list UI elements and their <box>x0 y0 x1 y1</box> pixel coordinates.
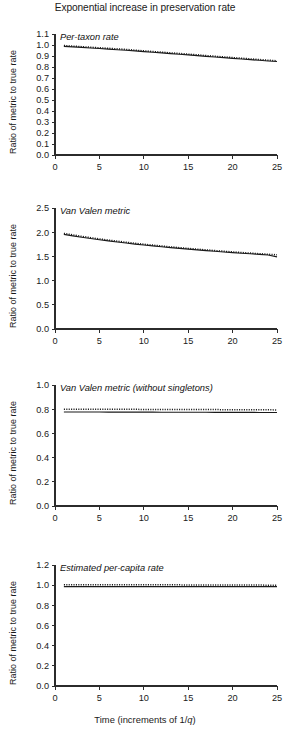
y-tick-label: 0.9 <box>36 51 49 61</box>
data-series-markers <box>64 233 277 254</box>
y-axis-label: Ratio of metric to true rate <box>8 216 18 336</box>
x-tick-label: 5 <box>97 693 102 703</box>
x-tick-label: 20 <box>227 693 237 703</box>
y-tick-label: 0.8 <box>36 405 49 415</box>
panel-title: Van Valen metric (without singletons) <box>60 383 213 393</box>
y-tick-label: 0.0 <box>36 324 49 334</box>
figure-container: Exponential increase in preservation rat… <box>0 0 290 734</box>
plot-area: 0.00.20.40.60.81.00510152025Van Valen me… <box>0 373 290 533</box>
x-tick-label: 15 <box>183 336 193 346</box>
x-tick-label: 5 <box>97 513 102 523</box>
x-tick-label: 25 <box>272 162 282 172</box>
chart-panel-per-taxon-rate: Ratio of metric to true rate 0.00.10.20.… <box>0 22 290 182</box>
x-tick-label: 25 <box>272 693 282 703</box>
chart-panel-van-valen-metric: Ratio of metric to true rate 0.00.51.01.… <box>0 196 290 356</box>
x-tick-label: 10 <box>139 513 149 523</box>
panel-title: Per-taxon rate <box>60 32 119 42</box>
y-tick-label: 1.2 <box>36 560 49 570</box>
plot-area: 0.00.51.01.52.02.50510152025Van Valen me… <box>0 196 290 356</box>
panel-title: Van Valen metric <box>60 206 130 216</box>
x-tick-label: 10 <box>139 336 149 346</box>
chart-panel-estimated-per-capita-rate: Ratio of metric to true rate 0.00.20.40.… <box>0 553 290 713</box>
y-tick-label: 0.6 <box>36 621 49 631</box>
y-tick-label: 0.5 <box>36 95 49 105</box>
y-axis-label: Ratio of metric to true rate <box>8 42 18 162</box>
x-tick-label: 20 <box>227 336 237 346</box>
x-tick-label: 15 <box>183 162 193 172</box>
x-tick-label: 0 <box>52 693 57 703</box>
y-axis-label: Ratio of metric to true rate <box>8 393 18 513</box>
y-tick-label: 0.8 <box>36 601 49 611</box>
x-tick-label: 0 <box>52 162 57 172</box>
y-tick-label: 0.2 <box>36 477 49 487</box>
axis-lines <box>55 385 277 506</box>
x-tick-label: 15 <box>183 693 193 703</box>
y-tick-label: 0.5 <box>36 300 49 310</box>
y-tick-label: 0.0 <box>36 150 49 160</box>
figure-title: Exponential increase in preservation rat… <box>0 2 290 13</box>
y-tick-label: 0.8 <box>36 62 49 72</box>
x-tick-label: 10 <box>139 162 149 172</box>
x-axis-label-suffix: ) <box>193 714 196 725</box>
x-tick-label: 15 <box>183 513 193 523</box>
axis-lines <box>55 208 277 329</box>
y-tick-label: 1.5 <box>36 252 49 262</box>
y-axis-label: Ratio of metric to true rate <box>8 573 18 693</box>
y-tick-label: 1.1 <box>36 29 49 39</box>
axis-lines <box>55 565 277 686</box>
y-tick-label: 0.3 <box>36 117 49 127</box>
x-tick-label: 25 <box>272 513 282 523</box>
y-tick-label: 0.4 <box>36 641 49 651</box>
chart-panel-van-valen-without-singletons: Ratio of metric to true rate 0.00.20.40.… <box>0 373 290 533</box>
y-tick-label: 0.7 <box>36 73 49 83</box>
y-tick-label: 0.4 <box>36 106 49 116</box>
panel-title: Estimated per-capita rate <box>60 563 164 573</box>
data-series-markers <box>64 409 277 410</box>
y-tick-label: 0.2 <box>36 128 49 138</box>
x-axis-label: Time (increments of 1/q) <box>0 714 290 725</box>
y-tick-label: 0.0 <box>36 501 49 511</box>
y-tick-label: 1.0 <box>36 380 49 390</box>
plot-area: 0.00.20.40.60.81.01.20510152025Estimated… <box>0 553 290 713</box>
x-tick-label: 5 <box>97 336 102 346</box>
y-tick-label: 0.6 <box>36 429 49 439</box>
y-tick-label: 2.0 <box>36 228 49 238</box>
y-tick-label: 1.0 <box>36 580 49 590</box>
x-axis-label-prefix: Time (increments of 1/ <box>94 714 187 725</box>
y-tick-label: 0.6 <box>36 84 49 94</box>
plot-area: 0.00.10.20.30.40.50.60.70.80.91.01.10510… <box>0 22 290 182</box>
x-tick-label: 10 <box>139 693 149 703</box>
x-tick-label: 0 <box>52 336 57 346</box>
y-tick-label: 1.0 <box>36 40 49 50</box>
y-tick-label: 0.1 <box>36 139 49 149</box>
x-tick-label: 20 <box>227 513 237 523</box>
y-tick-label: 0.0 <box>36 681 49 691</box>
y-tick-label: 2.5 <box>36 203 49 213</box>
x-tick-label: 25 <box>272 336 282 346</box>
axis-lines <box>55 34 277 155</box>
x-tick-label: 0 <box>52 513 57 523</box>
y-tick-label: 0.2 <box>36 661 49 671</box>
x-tick-label: 5 <box>97 162 102 172</box>
data-series-markers <box>64 585 277 586</box>
data-series-line <box>64 46 277 61</box>
x-tick-label: 20 <box>227 162 237 172</box>
y-tick-label: 1.0 <box>36 276 49 286</box>
y-tick-label: 0.4 <box>36 453 49 463</box>
